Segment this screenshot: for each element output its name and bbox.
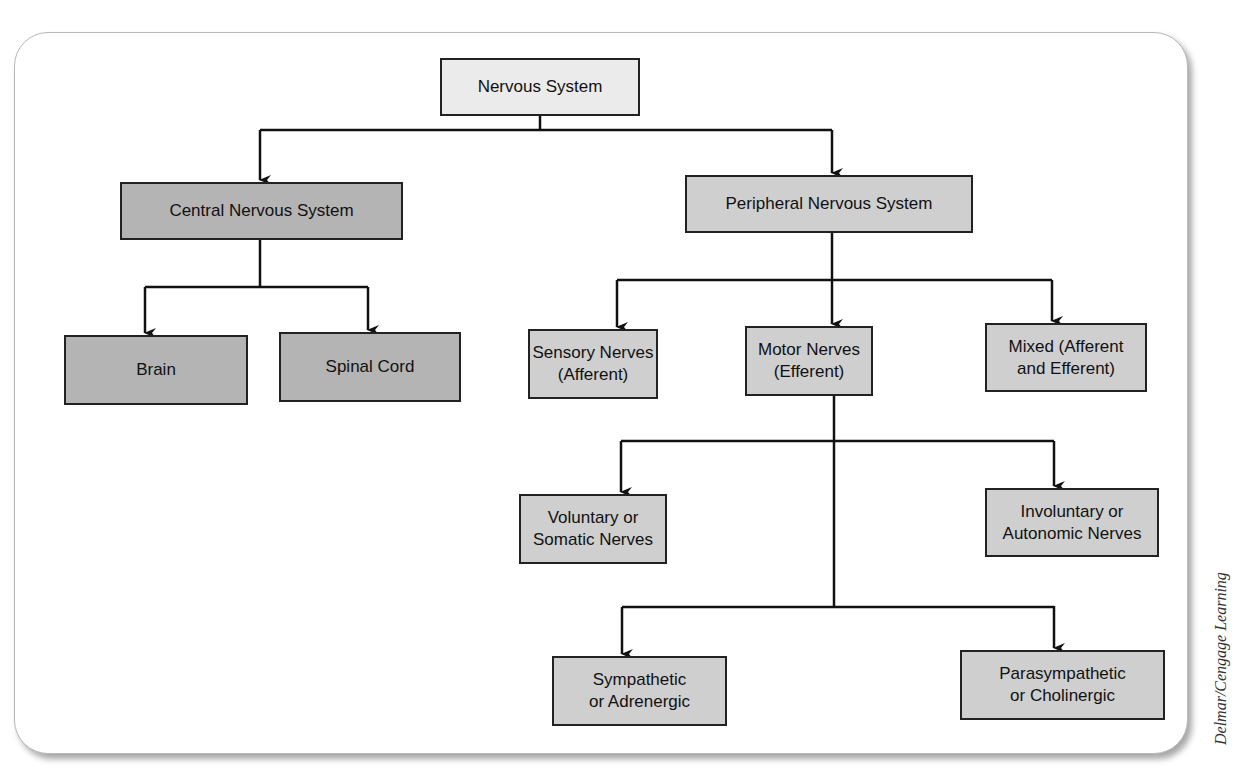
node-involuntary-autonomic-nerves: Involuntary or Autonomic Nerves: [985, 488, 1159, 557]
node-voluntary-somatic-nerves: Voluntary or Somatic Nerves: [519, 494, 667, 564]
node-sympathetic-adrenergic: Sympathetic or Adrenergic: [552, 656, 727, 726]
node-motor-nerves: Motor Nerves (Efferent): [745, 326, 873, 396]
node-brain: Brain: [64, 335, 248, 405]
node-spinal-cord: Spinal Cord: [279, 332, 461, 402]
node-central-nervous-system: Central Nervous System: [120, 182, 403, 240]
node-sensory-nerves: Sensory Nerves (Afferent): [528, 329, 658, 399]
credit-text: Delmar/Cengage Learning: [1212, 572, 1230, 745]
node-peripheral-nervous-system: Peripheral Nervous System: [685, 175, 973, 233]
node-parasympathetic-cholinergic: Parasympathetic or Cholinergic: [960, 650, 1165, 720]
node-mixed-nerves: Mixed (Afferent and Efferent): [985, 323, 1147, 392]
node-nervous-system: Nervous System: [440, 58, 640, 116]
